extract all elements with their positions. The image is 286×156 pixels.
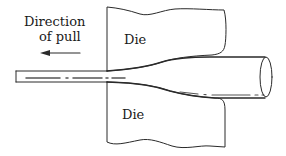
lower-die-label: Die	[122, 108, 144, 122]
direction-label-line1: Direction	[24, 15, 85, 29]
pull-arrow-head	[40, 50, 50, 56]
wire-drawing-diagram: Direction of pull Die Die	[0, 0, 286, 156]
rod-end-cap	[260, 57, 272, 97]
upper-die-label: Die	[124, 33, 146, 47]
taper-upper-edge	[107, 57, 265, 71]
direction-label-line2: of pull	[39, 30, 81, 44]
drawn-wire-outline	[16, 71, 107, 82]
rod-centerline	[180, 92, 264, 95]
